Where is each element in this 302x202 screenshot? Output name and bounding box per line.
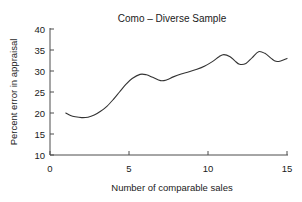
y-axis: 40 35 30 25 20 15 10 Percent error in ap… [8,24,54,161]
chart-title: Como – Diverse Sample [118,13,227,24]
x-tick-label: 10 [203,163,214,174]
y-tick-label: 20 [34,108,45,119]
x-axis: 0 5 10 15 Number of comparable sales [47,151,292,193]
chart-figure: Como – Diverse Sample 40 35 30 25 20 15 … [0,0,302,202]
y-tick-label: 30 [34,66,45,77]
y-tick-label: 10 [34,150,45,161]
x-tick-label: 0 [47,163,52,174]
y-tick-label: 15 [34,129,45,140]
data-series-line [66,51,287,117]
line-chart: Como – Diverse Sample 40 35 30 25 20 15 … [0,0,302,202]
x-axis-label: Number of comparable sales [111,182,233,193]
y-tick-label: 25 [34,87,45,98]
x-tick-label: 15 [282,163,293,174]
y-axis-label: Percent error in appraisal [8,39,19,146]
x-tick-label: 5 [126,163,131,174]
y-tick-label: 40 [34,24,45,35]
y-tick-label: 35 [34,45,45,56]
